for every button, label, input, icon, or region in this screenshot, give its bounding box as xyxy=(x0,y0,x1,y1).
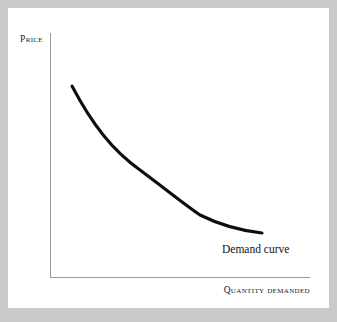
demand-curve-line xyxy=(72,86,262,233)
demand-curve-chart: Price Quantity demanded Demand curve xyxy=(0,0,337,322)
figure-container: Price Quantity demanded Demand curve xyxy=(0,0,337,322)
x-axis-label: Quantity demanded xyxy=(224,285,310,295)
demand-curve-annotation: Demand curve xyxy=(222,243,289,255)
y-axis-label: Price xyxy=(20,34,43,44)
